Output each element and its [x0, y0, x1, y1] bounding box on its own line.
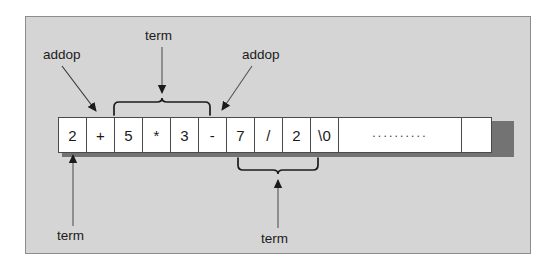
figure-canvas: 2 + 5 * 3 - 7 / 2 \0 .......... addop te… [0, 0, 552, 272]
buffer-cell: 2 [58, 117, 87, 153]
label-term-top: term [145, 28, 172, 43]
buffer-cell: * [142, 117, 171, 153]
buffer-cell: 5 [114, 117, 143, 153]
ellipsis-dots: .......... [372, 127, 427, 139]
token-buffer: 2 + 5 * 3 - 7 / 2 \0 .......... [58, 117, 491, 153]
label-addop-second: addop [242, 47, 280, 62]
label-addop-first: addop [43, 47, 81, 62]
buffer-cell: / [254, 117, 283, 153]
buffer-cell: + [86, 117, 115, 153]
buffer-cell-ellipsis: .......... [338, 117, 462, 153]
buffer-cell-terminator: \0 [310, 117, 339, 153]
buffer-cell-empty [461, 117, 492, 153]
buffer-cell: 7 [226, 117, 255, 153]
label-term-bottom-right: term [261, 231, 288, 246]
buffer-cell: - [198, 117, 227, 153]
buffer-cell: 3 [170, 117, 199, 153]
label-term-bottom-left: term [57, 228, 84, 243]
buffer-cell: 2 [282, 117, 311, 153]
